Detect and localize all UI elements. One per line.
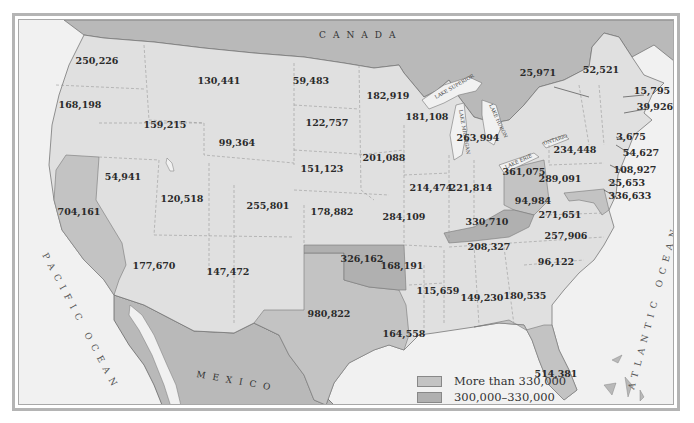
state-value-louisiana: 164,558 (383, 328, 426, 340)
state-value-wyoming: 99,364 (219, 137, 256, 149)
state-value-virginia: 271,651 (539, 209, 582, 221)
atlantic-ocean-label: ATLANTIC OCEAN (626, 223, 674, 392)
state-value-nebraska: 151,123 (301, 163, 344, 175)
state-value-rhode-island: 3,675 (616, 131, 646, 143)
state-value-washington: 250,226 (76, 55, 119, 67)
state-value-massachusetts: 39,926 (637, 101, 674, 113)
state-value-maine: 52,521 (583, 64, 619, 76)
state-value-texas: 980,822 (308, 308, 351, 320)
state-value-new-mexico: 147,472 (207, 266, 250, 278)
state-value-new-hampshire: 15,795 (634, 85, 670, 97)
legend-swatch (417, 376, 442, 387)
state-value-alabama: 149,230 (461, 292, 504, 304)
state-value-connecticut: 54,627 (623, 147, 659, 159)
legend-label: 300,000–330,000 (454, 390, 555, 404)
state-value-california: 704,161 (58, 206, 101, 218)
state-value-tennessee: 208,327 (468, 241, 511, 253)
state-value-new-jersey: 108,927 (614, 164, 657, 176)
state-value-wisconsin: 181,108 (406, 111, 449, 123)
state-value-west-virginia: 94,984 (515, 195, 552, 207)
state-value-utah: 120,518 (161, 193, 204, 205)
map-legend: More than 330,000 300,000–330,000 Less t… (417, 373, 566, 405)
state-value-michigan: 263,994 (457, 132, 500, 144)
state-value-minnesota: 182,919 (367, 90, 410, 102)
us-map-svg: CANADA MEXICO PACIFIC OCEAN ATLANTIC OCE… (19, 20, 674, 405)
state-value-missouri: 284,109 (383, 211, 426, 223)
legend-label: More than 330,000 (454, 374, 566, 388)
state-value-idaho: 159,215 (144, 119, 187, 131)
map-frame: CANADA MEXICO PACIFIC OCEAN ATLANTIC OCE… (12, 13, 680, 411)
state-value-arizona: 177,670 (133, 260, 176, 272)
state-value-colorado: 255,801 (247, 200, 290, 212)
state-value-maryland: 336,633 (609, 190, 652, 202)
state-value-nevada: 54,941 (105, 171, 141, 183)
state-value-kentucky: 330,710 (466, 216, 509, 228)
state-value-north-dakota: 59,483 (293, 75, 329, 87)
legend-swatch (417, 392, 442, 403)
state-value-new-york: 234,448 (554, 144, 597, 156)
state-value-pennsylvania: 289,091 (539, 173, 582, 185)
state-value-montana: 130,441 (198, 75, 241, 87)
legend-item-300k-330k: 300,000–330,000 (417, 389, 566, 405)
state-value-mississippi: 115,659 (417, 285, 460, 297)
state-value-oregon: 168,198 (59, 99, 102, 111)
state-value-indiana: 221,814 (450, 182, 493, 194)
state-value-iowa: 201,088 (363, 152, 406, 164)
state-value-south-carolina: 96,122 (538, 256, 574, 268)
state-value-kansas: 178,882 (311, 206, 354, 218)
state-value-illinois: 214,474 (410, 182, 453, 194)
map-canvas: CANADA MEXICO PACIFIC OCEAN ATLANTIC OCE… (18, 19, 674, 405)
state-value-vermont: 25,971 (520, 67, 556, 79)
canada-label: CANADA (319, 30, 402, 40)
state-value-georgia: 180,535 (504, 290, 547, 302)
state-value-north-carolina: 257,906 (545, 230, 588, 242)
state-value-delaware: 25,653 (609, 177, 645, 189)
legend-item-more-than-330k: More than 330,000 (417, 373, 566, 389)
state-value-south-dakota: 122,757 (306, 117, 349, 129)
state-value-arkansas: 168,191 (381, 260, 424, 272)
state-value-oklahoma: 326,162 (341, 253, 384, 265)
